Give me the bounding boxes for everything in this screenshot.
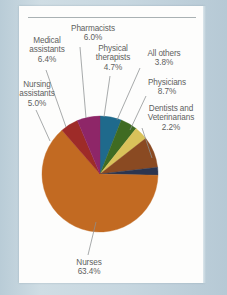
figure-root: Pharmacists 6.0% Medical assistants 6.4%… (0, 0, 227, 295)
label-nursing-assistants-pct: 5.0% (2, 99, 72, 108)
leader-nurses (88, 222, 96, 255)
label-all-others-pct: 3.8% (133, 58, 195, 67)
label-physicians-name: Physicians (148, 78, 186, 87)
label-medical-assistants-name1: Medical (33, 36, 61, 45)
label-dentists-vets-pct: 2.2% (138, 123, 204, 132)
label-nurses: Nurses 63.4% (58, 258, 120, 277)
leader-nursing-assistants (36, 110, 50, 141)
label-all-others: All others 3.8% (133, 49, 195, 68)
label-nursing-assistants-name1: Nursing (23, 80, 51, 89)
label-medical-assistants-pct: 6.4% (10, 55, 84, 64)
label-all-others-name: All others (147, 49, 180, 58)
label-nurses-pct: 63.4% (58, 267, 120, 276)
label-nursing-assistants: Nursing assistants 5.0% (2, 80, 72, 108)
label-medical-assistants-name2: assistants (10, 45, 84, 54)
label-dentists-vets-name2: Veterinarians (138, 113, 204, 122)
label-dentists-vets-name1: Dentists and (149, 104, 193, 113)
label-dentists-vets: Dentists and Veterinarians 2.2% (138, 104, 204, 132)
label-nursing-assistants-name2: assistants (2, 89, 72, 98)
label-nurses-name: Nurses (76, 258, 101, 267)
leader-dentists-vets (142, 128, 152, 158)
label-physical-therapists-name1: Physical (98, 44, 128, 53)
label-pharmacists-name: Pharmacists (71, 24, 115, 33)
leader-physical-therapists (104, 76, 110, 117)
label-physicians: Physicians 8.7% (136, 78, 198, 97)
label-medical-assistants: Medical assistants 6.4% (10, 36, 84, 64)
pie-chart: Pharmacists 6.0% Medical assistants 6.4%… (0, 0, 227, 295)
label-physicians-pct: 8.7% (136, 87, 198, 96)
